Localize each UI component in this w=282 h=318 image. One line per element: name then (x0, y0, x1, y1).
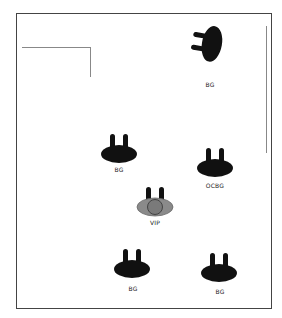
ocbg-marker-icon (195, 146, 235, 180)
vip-marker-icon (135, 185, 175, 219)
bg-left-marker-icon (99, 132, 139, 166)
ocbg-label: OCBG (195, 182, 235, 189)
vip-label: VIP (135, 219, 175, 226)
bg-left-label: BG (99, 166, 139, 173)
bg-top-marker-icon (187, 20, 227, 65)
bg-bottom-left-label: BG (113, 285, 153, 292)
bg-top-label: BG (190, 81, 230, 88)
bg-bottom-right-label: BG (200, 288, 240, 295)
right-guide-line (266, 26, 267, 153)
corner-guide-horizontal (22, 47, 90, 48)
bg-bottom-right-marker-icon (199, 251, 239, 285)
bg-bottom-left-marker-icon (112, 247, 152, 281)
corner-guide-vertical (90, 47, 91, 77)
